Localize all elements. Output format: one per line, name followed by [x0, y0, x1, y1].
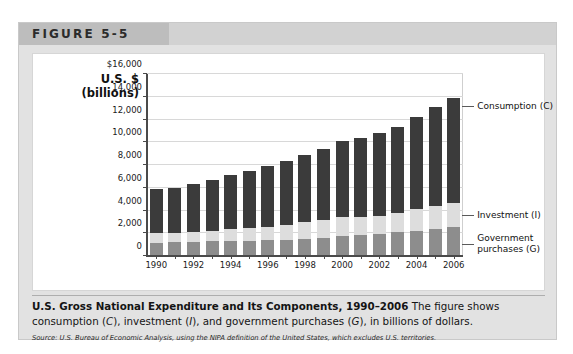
bar-segment-investment: [373, 216, 386, 234]
caption-body-2: ), investment (: [113, 315, 189, 327]
bar-segment-government: [373, 234, 386, 256]
bar-segment-government: [298, 239, 311, 256]
bar-segment-consumption: [224, 175, 237, 229]
bar-segment-investment: [206, 231, 219, 241]
bar-segment-government: [447, 227, 460, 256]
bar-1992: [187, 184, 200, 256]
bar-segment-government: [224, 241, 237, 256]
x-axis-tick-mark: [379, 256, 380, 259]
bar-segment-consumption: [150, 189, 163, 233]
bar-segment-government: [261, 240, 274, 256]
x-axis-tick-mark: [324, 256, 325, 259]
bar-segment-consumption: [187, 184, 200, 233]
bar-1996: [261, 166, 274, 256]
figure-number-label: FIGURE 5-5: [32, 27, 130, 41]
consumption-callout: Consumption (C): [477, 101, 553, 112]
x-axis-tick-label: 1998: [294, 260, 316, 270]
consumption-label: Consumption (C): [477, 101, 553, 111]
caption-body-3: ), and government purchases (: [192, 315, 351, 327]
y-axis-tick-label: 10,000: [112, 127, 142, 137]
bar-segment-consumption: [206, 180, 219, 231]
bar-segment-investment: [243, 228, 256, 240]
bar-1998: [298, 155, 311, 256]
bar-2001: [354, 138, 367, 256]
investment-leader-line: [462, 215, 474, 216]
consumption-leader-line: [462, 106, 474, 107]
y-axis-tick-label: $16,000: [107, 59, 142, 69]
investment-callout: Investment (I): [477, 210, 541, 221]
government-label: purchases (G): [477, 244, 540, 254]
bar-segment-government: [150, 243, 163, 256]
x-axis-tick-mark: [175, 256, 176, 259]
bar-segment-consumption: [280, 161, 293, 225]
y-axis-tick-label: 12,000: [112, 105, 142, 115]
bar-segment-government: [187, 242, 200, 256]
gridline: [147, 96, 463, 97]
x-axis-tick-mark: [286, 256, 287, 259]
x-axis-tick-label: 1996: [257, 260, 279, 270]
bar-segment-consumption: [410, 117, 423, 209]
bar-segment-investment: [317, 220, 330, 238]
bar-segment-government: [243, 241, 256, 256]
bar-segment-consumption: [243, 171, 256, 228]
bar-segment-consumption: [168, 188, 181, 234]
y-axis-tick-label: 6,000: [118, 173, 142, 183]
bar-1991: [168, 188, 181, 256]
x-axis-tick-label: 2004: [406, 260, 428, 270]
caption-area: U.S. Gross National Expenditure and Its …: [32, 299, 545, 342]
bar-segment-investment: [280, 225, 293, 240]
x-axis-tick-label: 1992: [183, 260, 205, 270]
bar-segment-consumption: [261, 166, 274, 226]
bar-segment-consumption: [391, 127, 404, 214]
investment-label: Investment (I): [477, 210, 541, 220]
bar-segment-government: [336, 236, 349, 256]
bar-1997: [280, 161, 293, 256]
chart-panel: U.S. $ (billions) 02,0004,0006,0008,0001…: [32, 53, 545, 291]
x-axis-tick-mark: [398, 256, 399, 259]
x-axis-tick-label: 1990: [145, 260, 167, 270]
bar-segment-consumption: [354, 138, 367, 218]
y-axis-tick-label: 2,000: [118, 218, 142, 228]
x-axis-tick-mark: [361, 256, 362, 259]
bar-segment-consumption: [317, 149, 330, 220]
bar-segment-investment: [150, 233, 163, 242]
bar-segment-government: [429, 229, 442, 256]
bar-segment-investment: [429, 206, 442, 229]
x-axis-tick-label: 2000: [331, 260, 353, 270]
bar-segment-consumption: [373, 133, 386, 216]
y-axis-line: [146, 74, 148, 256]
bar-2000: [336, 141, 349, 256]
y-axis-tick-label: 8,000: [118, 150, 142, 160]
x-axis-tick-mark: [231, 256, 232, 259]
bar-segment-investment: [187, 232, 200, 241]
x-axis-tick-mark: [193, 256, 194, 259]
bar-2006: [447, 98, 460, 256]
x-axis-tick-label: 2006: [443, 260, 465, 270]
y-axis-tick-label: 0: [137, 241, 142, 251]
caption-body-4: ), in billions of dollars.: [359, 315, 473, 327]
bar-2003: [391, 127, 404, 256]
bar-2004: [410, 117, 423, 256]
bar-segment-government: [410, 231, 423, 256]
bar-segment-investment: [354, 217, 367, 235]
government-leader-line: [462, 244, 474, 245]
bar-segment-government: [317, 238, 330, 256]
figure-frame: FIGURE 5-5 U.S. $ (billions) 02,0004,000…: [18, 22, 557, 340]
government-label: Government: [477, 233, 533, 243]
y-axis-tick-label: 14,000: [112, 82, 142, 92]
bar-segment-government: [354, 235, 367, 256]
bar-1990: [150, 189, 163, 256]
bar-segment-government: [391, 232, 404, 256]
figure-header-band: FIGURE 5-5: [19, 23, 556, 45]
caption-text: U.S. Gross National Expenditure and Its …: [32, 299, 545, 328]
x-axis-tick-mark: [268, 256, 269, 259]
bar-segment-investment: [336, 217, 349, 237]
bar-segment-consumption: [298, 155, 311, 222]
bar-segment-investment: [447, 203, 460, 228]
bar-segment-investment: [224, 229, 237, 241]
bar-segment-consumption: [336, 141, 349, 217]
x-axis-tick-label: 2002: [369, 260, 391, 270]
bar-2005: [429, 107, 442, 256]
x-axis-tick-mark: [305, 256, 306, 259]
bar-segment-investment: [261, 227, 274, 240]
